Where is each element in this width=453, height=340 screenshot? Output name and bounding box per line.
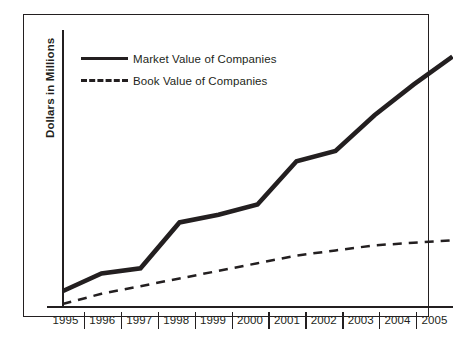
- x-axis-year-label: 2004: [379, 309, 416, 332]
- x-axis-year-label: 1995: [47, 309, 84, 332]
- x-axis-year-label: 2002: [305, 309, 342, 332]
- legend-label-market-value: Market Value of Companies: [133, 48, 277, 70]
- x-axis-year-label: 1998: [158, 309, 195, 332]
- x-axis-year-label: 2005: [416, 309, 453, 332]
- dashed-line-swatch: [81, 79, 128, 86]
- x-axis-year-label: 2001: [268, 309, 305, 332]
- legend-item-book-value: Book Value of Companies: [81, 70, 341, 92]
- x-axis-year-label: 1996: [84, 309, 121, 332]
- x-axis-year-label: 2000: [232, 309, 269, 332]
- x-axis-labels: 1995199619971998199920002001200220032004…: [47, 309, 453, 332]
- chart-screenshot: Dollars in Millions Market Value of Comp…: [0, 0, 453, 340]
- x-axis-year-label: 2003: [342, 309, 379, 332]
- x-axis-year-label: 1999: [195, 309, 232, 332]
- chart-figure-frame: Dollars in Millions Market Value of Comp…: [23, 14, 429, 317]
- x-axis-year-label: 1997: [121, 309, 158, 332]
- y-axis-title: Dollars in Millions: [41, 8, 59, 138]
- legend-item-market-value: Market Value of Companies: [81, 48, 341, 70]
- x-axis-line: [47, 306, 453, 308]
- legend-label-book-value: Book Value of Companies: [133, 70, 267, 92]
- y-axis-line: [62, 30, 64, 307]
- chart-legend: Market Value of Companies Book Value of …: [81, 48, 341, 92]
- solid-line-swatch: [81, 57, 128, 64]
